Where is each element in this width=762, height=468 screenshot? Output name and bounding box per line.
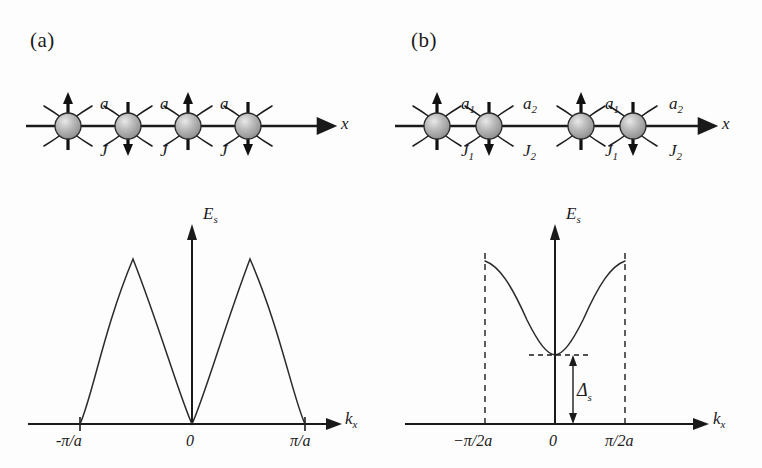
panel-b-chain-diagram	[381, 0, 762, 200]
spin-gap-sub: s	[588, 391, 592, 403]
panel-b: (b)	[381, 0, 762, 468]
panel-b-x-axis-sub: x	[721, 418, 726, 430]
spin-gap-symbol: Δ	[577, 380, 588, 400]
coupling-label-a-3: J	[220, 141, 228, 161]
spacing-label-b-3: a1	[605, 94, 619, 115]
spacing-label-a-3: a	[220, 94, 229, 114]
spacing-b-2-sub: 2	[532, 103, 538, 115]
panel-b-x-axis-label: kx	[713, 409, 725, 430]
spin-site-1	[413, 92, 461, 150]
panel-b-x-axis-symbol: k	[713, 409, 721, 428]
spacing-b-1-sub: 1	[470, 103, 476, 115]
panel-b-dispersion-plot	[381, 208, 762, 468]
coupling-b-4-symbol: J	[669, 141, 677, 160]
panel-b-xtick-max: π/2a	[605, 432, 633, 450]
coupling-label-a-1: J	[100, 141, 108, 161]
spacing-b-4-symbol: a	[669, 94, 678, 113]
coupling-b-1-symbol: J	[461, 141, 469, 160]
spacing-label-b-4: a2	[669, 94, 683, 115]
coupling-b-3-sub: 1	[613, 150, 619, 162]
panel-b-y-axis-label: Es	[566, 204, 581, 225]
coupling-b-2-symbol: J	[523, 141, 531, 160]
panel-a-x-axis-label: kx	[345, 409, 357, 430]
panel-a-dispersion-plot	[0, 208, 381, 468]
panel-a-x-axis-symbol: k	[345, 409, 353, 428]
spacing-label-b-1: a1	[461, 94, 475, 115]
spacing-b-2-symbol: a	[523, 94, 532, 113]
spin-site-3	[557, 92, 605, 150]
panel-a-xtick-max: π/a	[290, 432, 310, 450]
panel-a-y-axis-symbol: E	[203, 204, 213, 223]
spacing-b-3-symbol: a	[605, 94, 614, 113]
spin-site-2	[104, 102, 152, 156]
coupling-b-1-sub: 1	[469, 150, 475, 162]
panel-b-y-axis-symbol: E	[566, 204, 576, 223]
spacing-b-1-symbol: a	[461, 94, 470, 113]
coupling-label-b-4: J2	[669, 141, 682, 162]
panel-a-xtick-zero: 0	[186, 432, 194, 450]
panel-a: (a)	[0, 0, 381, 468]
figure-canvas: (a)	[0, 0, 762, 468]
panel-b-xtick-zero: 0	[549, 432, 557, 450]
panel-a-y-axis-label: Es	[203, 204, 218, 225]
spacing-label-b-2: a2	[523, 94, 537, 115]
chain-b-axis-label: x	[722, 114, 730, 134]
spin-gap-annotation	[569, 355, 577, 424]
spacing-b-3-sub: 1	[614, 103, 620, 115]
spacing-b-4-sub: 2	[678, 103, 684, 115]
panel-b-y-axis-sub: s	[576, 213, 580, 225]
chain-a-axis-label: x	[341, 114, 349, 134]
spacing-label-a-1: a	[100, 94, 109, 114]
coupling-label-b-2: J2	[523, 141, 536, 162]
panel-a-xtick-min: -π/a	[56, 432, 82, 450]
spin-site-4	[224, 102, 272, 156]
panel-b-xtick-min: −π/2a	[453, 432, 492, 450]
coupling-label-b-3: J1	[605, 141, 618, 162]
panel-a-chain-diagram	[0, 0, 381, 200]
coupling-b-3-symbol: J	[605, 141, 613, 160]
spin-site-3	[164, 92, 212, 150]
panel-a-y-axis-sub: s	[213, 213, 217, 225]
spin-gap-label: Δs	[577, 380, 592, 403]
panel-a-x-axis-sub: x	[353, 418, 358, 430]
coupling-label-b-1: J1	[461, 141, 474, 162]
coupling-label-a-2: J	[160, 141, 168, 161]
coupling-b-2-sub: 2	[531, 150, 537, 162]
spacing-label-a-2: a	[160, 94, 169, 114]
coupling-b-4-sub: 2	[677, 150, 683, 162]
spin-site-1	[44, 92, 92, 150]
